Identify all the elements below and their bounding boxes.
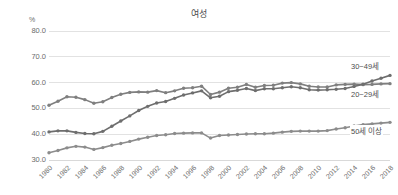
data-point xyxy=(74,131,77,134)
data-point xyxy=(236,133,239,136)
data-point xyxy=(119,142,122,145)
data-point xyxy=(218,95,221,98)
data-point xyxy=(290,130,293,133)
data-point xyxy=(209,93,212,96)
data-point xyxy=(299,129,302,132)
data-point xyxy=(101,146,104,149)
series-label-2: 30~49세 xyxy=(350,60,380,71)
data-point xyxy=(56,149,59,152)
data-point xyxy=(317,85,320,88)
data-point xyxy=(325,129,328,132)
data-point xyxy=(334,127,337,130)
data-point xyxy=(343,126,346,129)
data-point xyxy=(254,89,257,92)
data-point xyxy=(343,87,346,90)
data-point xyxy=(263,84,266,87)
data-point xyxy=(370,83,373,86)
data-point xyxy=(110,125,113,128)
data-point xyxy=(65,95,68,98)
series-lines xyxy=(47,74,391,155)
data-point xyxy=(272,131,275,134)
data-point xyxy=(227,87,230,90)
data-point xyxy=(119,93,122,96)
data-point xyxy=(334,88,337,91)
data-point xyxy=(164,133,167,136)
data-point xyxy=(272,83,275,86)
data-point xyxy=(56,129,59,132)
data-point xyxy=(47,130,50,133)
data-point xyxy=(155,89,158,92)
data-point xyxy=(370,79,373,82)
data-point xyxy=(128,140,131,143)
data-point xyxy=(254,132,257,135)
data-point xyxy=(146,136,149,139)
data-point xyxy=(110,144,113,147)
data-point xyxy=(128,114,131,117)
data-point xyxy=(191,91,194,94)
data-point xyxy=(245,83,248,86)
data-point xyxy=(137,109,140,112)
data-point xyxy=(47,151,50,154)
data-point xyxy=(155,134,158,137)
data-point xyxy=(101,100,104,103)
data-point xyxy=(281,86,284,89)
data-point xyxy=(299,86,302,89)
data-point xyxy=(200,131,203,134)
data-point xyxy=(272,87,275,90)
data-point xyxy=(227,90,230,93)
data-point xyxy=(218,134,221,137)
data-point xyxy=(191,131,194,134)
data-point xyxy=(263,87,266,90)
data-point xyxy=(388,121,391,124)
data-point xyxy=(281,81,284,84)
data-point xyxy=(137,137,140,140)
data-point xyxy=(92,148,95,151)
data-point xyxy=(47,104,50,107)
data-point xyxy=(137,90,140,93)
chart-container: 여성 % 80.070.060.050.040.030.0 1980198219… xyxy=(0,0,398,195)
data-point xyxy=(164,91,167,94)
data-point xyxy=(308,129,311,132)
series-label-1: 20~29세 xyxy=(350,88,380,99)
series-label-3: 50세 이상 xyxy=(350,125,383,136)
data-point xyxy=(146,105,149,108)
data-point xyxy=(182,87,185,90)
data-point xyxy=(83,145,86,148)
data-point xyxy=(200,85,203,88)
data-point xyxy=(290,81,293,84)
data-point xyxy=(290,85,293,88)
data-point xyxy=(281,130,284,133)
data-point xyxy=(173,89,176,92)
data-point xyxy=(101,130,104,133)
data-point xyxy=(173,97,176,100)
data-point xyxy=(65,129,68,132)
data-point xyxy=(65,146,68,149)
data-point xyxy=(263,132,266,135)
data-point xyxy=(254,86,257,89)
data-point xyxy=(74,96,77,99)
data-point xyxy=(379,82,382,85)
data-point xyxy=(74,145,77,148)
data-point xyxy=(236,89,239,92)
data-point xyxy=(92,102,95,105)
data-point xyxy=(388,74,391,77)
data-point xyxy=(245,132,248,135)
data-point xyxy=(245,87,248,90)
data-point xyxy=(146,90,149,93)
data-point xyxy=(343,83,346,86)
series-line xyxy=(49,83,390,106)
data-point xyxy=(236,86,239,89)
data-point xyxy=(191,86,194,89)
data-point xyxy=(325,88,328,91)
data-point xyxy=(379,121,382,124)
data-point xyxy=(92,132,95,135)
data-point xyxy=(308,88,311,91)
data-point xyxy=(361,82,364,85)
data-point xyxy=(164,100,167,103)
data-point xyxy=(155,101,158,104)
data-point xyxy=(299,82,302,85)
data-point xyxy=(200,89,203,92)
data-point xyxy=(83,132,86,135)
data-point xyxy=(56,99,59,102)
series-line xyxy=(49,122,390,152)
